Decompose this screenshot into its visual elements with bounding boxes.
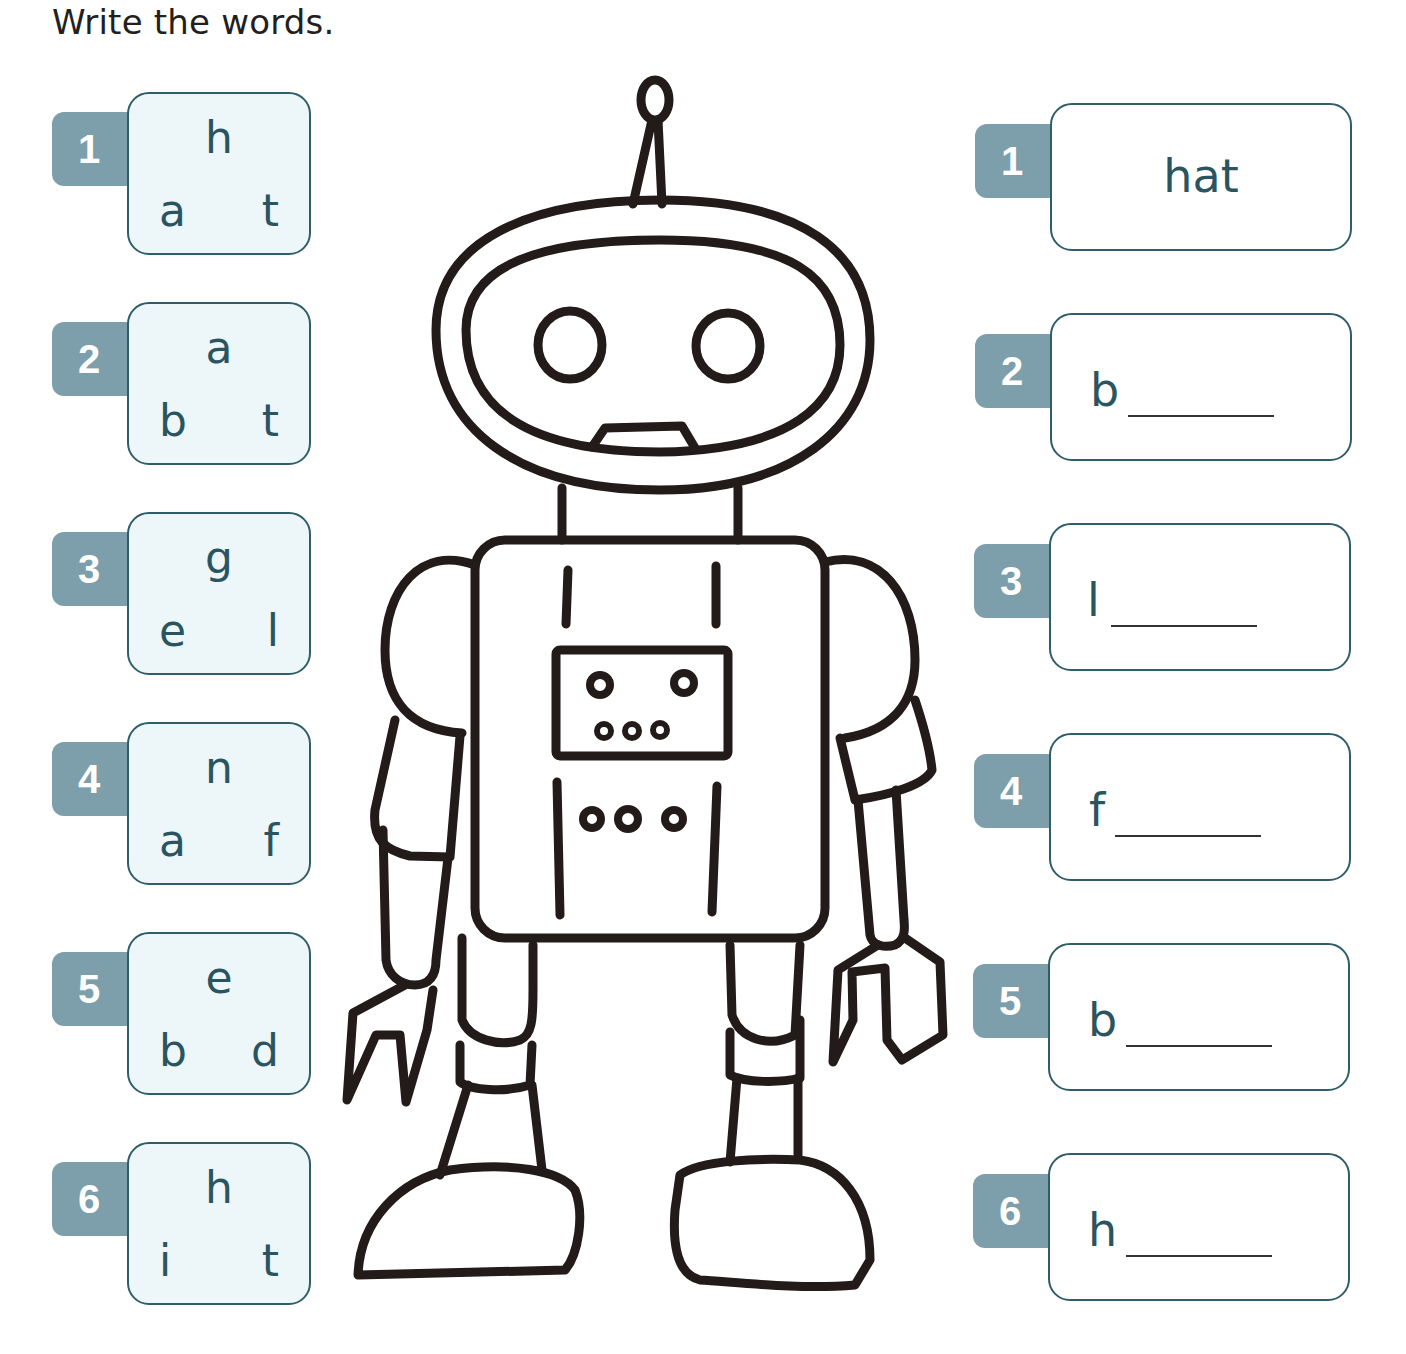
letter-bottom-left: b (159, 399, 187, 443)
answer-start-letter: b (1088, 997, 1117, 1043)
item-number-badge: 2 (52, 322, 138, 396)
letter-bottom-right: f (264, 819, 280, 863)
letter-bottom-right: d (251, 1029, 279, 1073)
letter-top: n (129, 746, 309, 790)
letter-top: g (129, 536, 309, 580)
instruction-title: Write the words. (52, 2, 334, 42)
robot-panel-icon (556, 650, 728, 756)
item-number-badge: 3 (974, 544, 1060, 618)
letter-bottom-right: t (262, 1239, 279, 1283)
robot-arm-left-icon (385, 560, 475, 733)
letter-bottom-right: l (267, 609, 279, 653)
item-number-badge: 6 (973, 1174, 1059, 1248)
letter-top: a (129, 326, 309, 370)
answer-box[interactable]: f (1049, 733, 1351, 881)
robot-arm-right-icon (825, 560, 915, 738)
item-number-badge: 1 (975, 124, 1061, 198)
robot-leg-right-icon (730, 945, 800, 1041)
answer-start-letter: l (1087, 577, 1100, 623)
letter-bottom-left: a (159, 189, 186, 233)
robot-foot-right-icon (674, 1159, 870, 1286)
item-number-badge: 3 (52, 532, 138, 606)
letter-bottom-left: b (159, 1029, 187, 1073)
answer-blank-line[interactable] (1126, 1045, 1272, 1047)
letter-bottom-right: t (262, 189, 279, 233)
item-number-badge: 4 (52, 742, 138, 816)
letter-box: e b d (127, 932, 311, 1095)
letter-top: h (129, 1166, 309, 1210)
answer-blank-line[interactable] (1111, 625, 1257, 627)
antenna-tip-icon (641, 80, 669, 120)
answer-blank-line[interactable] (1115, 835, 1261, 837)
answer-box[interactable]: b (1048, 943, 1350, 1091)
answer-start-letter: b (1090, 367, 1119, 413)
robot-foot-left-icon (358, 1167, 580, 1275)
letter-box: h i t (127, 1142, 311, 1305)
answer-blank-line[interactable] (1128, 415, 1274, 417)
answer-box[interactable]: l (1049, 523, 1351, 671)
letter-top: h (129, 116, 309, 160)
letter-bottom-left: e (159, 609, 186, 653)
robot-body-icon (475, 540, 825, 938)
letter-bottom-left: i (159, 1239, 171, 1283)
robot-eye-left-icon (538, 311, 602, 379)
answer-box[interactable]: hat (1050, 103, 1352, 251)
letter-bottom-left: a (159, 819, 186, 863)
item-number-badge: 6 (52, 1162, 138, 1236)
answer-start-letter: h (1088, 1207, 1117, 1253)
answer-box[interactable]: h (1048, 1153, 1350, 1301)
robot-icon (340, 60, 960, 1300)
item-number-badge: 5 (52, 952, 138, 1026)
item-number-badge: 2 (975, 334, 1061, 408)
answer-box[interactable]: b (1050, 313, 1352, 461)
robot-leg-left-icon (462, 938, 533, 1043)
answer-word-example: hat (1052, 153, 1350, 199)
robot-eye-right-icon (696, 313, 760, 379)
letter-top: e (129, 956, 309, 1000)
item-number-badge: 5 (973, 964, 1059, 1038)
letter-box: n a f (127, 722, 311, 885)
letter-box: a b t (127, 302, 311, 465)
answer-start-letter: f (1089, 787, 1105, 833)
letter-bottom-right: t (262, 399, 279, 443)
letter-box: g e l (127, 512, 311, 675)
item-number-badge: 4 (974, 754, 1060, 828)
item-number-badge: 1 (52, 112, 138, 186)
letter-box: h a t (127, 92, 311, 255)
answer-blank-line[interactable] (1126, 1255, 1272, 1257)
